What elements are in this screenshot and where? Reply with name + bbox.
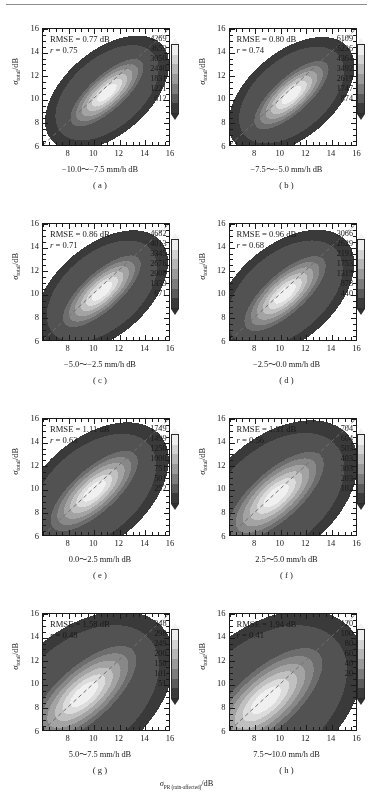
x-tick-label: 14 [323, 734, 339, 743]
y-tick-label: 6 [25, 337, 39, 346]
colorbar-tick-label: 150 [125, 659, 167, 669]
x-tick-label: 12 [297, 539, 313, 548]
colorbar-tick-label: 1749 [125, 424, 167, 434]
colorbar-bottom-arrow-icon [171, 699, 179, 705]
x-tick-label: 14 [136, 344, 152, 353]
global-x-axis-subscript: PR (rain-affected) [164, 784, 202, 790]
rmse-annotation: RMSE = 0.86 dB [50, 229, 110, 240]
y-tick-label: 12 [212, 71, 226, 80]
y-tick-label: 6 [212, 727, 226, 736]
colorbar-tick-label: 878 [311, 279, 353, 289]
colorbar-tick-label: 403 [311, 454, 353, 464]
colorbar-scale-c: 468240133345267620081339671 [125, 229, 167, 299]
rmse-annotation: RMSE = 1.58 dB [50, 619, 110, 630]
y-tick-label: 12 [25, 656, 39, 665]
correlation-annotation: r = 0.71 [50, 240, 78, 251]
y-tick-label: 16 [25, 609, 39, 618]
y-axis-title-h: σtotal/dB [197, 629, 208, 683]
x-tick-label: 8 [60, 734, 76, 743]
colorbar-scale-d: 30662629219117531315878440 [311, 229, 353, 299]
correlation-annotation: r = 0.63 [50, 435, 78, 446]
y-tick-label: 8 [212, 508, 226, 517]
y-tick-label: 10 [212, 484, 226, 493]
colorbar-tick-label: 51 [125, 679, 167, 689]
panel-label-h: ( h ) [207, 765, 367, 775]
panel-h: RMSE = 1.94 dB r = 0.41 810121416 681012… [187, 595, 373, 790]
x-tick-label: 10 [272, 344, 288, 353]
rmse-annotation: RMSE = 1.11 dB [50, 424, 109, 435]
colorbar-tick-label: 2008 [125, 269, 167, 279]
colorbar-bottom-arrow-icon [357, 114, 365, 120]
correlation-annotation: r = 0.68 [237, 240, 265, 251]
panel-b: RMSE = 0.80 dB r = 0.74 810121416 681012… [187, 10, 373, 205]
x-tick-label: 8 [246, 734, 262, 743]
y-tick-label: 10 [212, 94, 226, 103]
global-x-axis-unit: /dB [201, 779, 213, 788]
y-tick-label: 16 [212, 219, 226, 228]
x-tick-label: 8 [60, 344, 76, 353]
colorbar-bottom-arrow-icon [357, 504, 365, 510]
panel-row: RMSE = 1.58 dB r = 0.48 810121416 681012… [0, 595, 373, 790]
colorbar-tick-label: 6109 [311, 34, 353, 44]
rmse-annotation: RMSE = 0.80 dB [237, 34, 297, 45]
y-tick-label: 16 [212, 24, 226, 33]
colorbar-tick-label: 4269 [125, 34, 167, 44]
y-tick-label: 14 [212, 47, 226, 56]
y-tick-label: 10 [25, 679, 39, 688]
x-tick-label: 12 [297, 149, 313, 158]
y-tick-label: 8 [25, 118, 39, 127]
colorbar-scale-a: 426936593050244018311221612 [125, 34, 167, 104]
colorbar-tick-label: 501 [125, 474, 167, 484]
y-tick-label: 6 [212, 142, 226, 151]
correlation-annotation: r = 0.75 [50, 45, 78, 56]
colorbar-bottom-arrow-icon [171, 504, 179, 510]
panel-x-title-g: 5.0～7.5 mm/h dB [20, 747, 180, 759]
global-x-axis-title: σPR (rain-affected)/dB [0, 779, 373, 790]
rmse-annotation: RMSE = 1.94 dB [237, 619, 297, 630]
x-tick-label: 12 [111, 149, 127, 158]
y-tick-label: 14 [25, 47, 39, 56]
colorbar-tick-label: 2676 [125, 259, 167, 269]
colorbar-bottom-arrow-icon [357, 699, 365, 705]
colorbar-tick-label: 1831 [125, 74, 167, 84]
colorbar-gradient [171, 434, 179, 504]
y-tick-label: 14 [25, 437, 39, 446]
colorbar-tick-label: 751 [125, 464, 167, 474]
colorbar-a [169, 38, 181, 120]
x-tick-label: 14 [323, 149, 339, 158]
x-tick-label: 16 [162, 344, 178, 353]
colorbar-gradient [171, 44, 179, 114]
colorbar-tick-label: 249 [125, 639, 167, 649]
y-tick-label: 8 [212, 703, 226, 712]
colorbar-tick-label: 200 [125, 649, 167, 659]
x-tick-label: 16 [349, 149, 365, 158]
panel-d: RMSE = 0.96 dB r = 0.68 810121416 681012… [187, 205, 373, 400]
colorbar-tick-label: 120 [311, 619, 353, 629]
x-tick-label: 12 [111, 539, 127, 548]
panel-row: RMSE = 0.86 dB r = 0.71 810121416 681012… [0, 205, 373, 400]
y-tick-label: 10 [25, 94, 39, 103]
x-tick-label: 8 [60, 539, 76, 548]
colorbar-tick-label: 3066 [311, 229, 353, 239]
panel-x-title-c: −5.0～−2.5 mm/h dB [20, 357, 180, 369]
y-tick-label: 12 [25, 461, 39, 470]
x-tick-label: 12 [111, 344, 127, 353]
colorbar-tick-label: 704 [311, 424, 353, 434]
y-tick-label: 10 [25, 484, 39, 493]
colorbar-h [355, 623, 367, 705]
colorbar-tick-label: 1499 [125, 434, 167, 444]
panel-x-title-d: −2.5～0.0 mm/h dB [207, 357, 367, 369]
y-axis-title-b: σtotal/dB [197, 44, 208, 98]
y-tick-label: 12 [25, 266, 39, 275]
y-tick-label: 10 [212, 679, 226, 688]
colorbar-gradient [357, 434, 365, 504]
colorbar-tick-label: 80 [311, 639, 353, 649]
colorbar-c [169, 233, 181, 315]
x-tick-label: 10 [272, 149, 288, 158]
colorbar-tick-label: 1250 [125, 444, 167, 454]
y-tick-label: 16 [25, 219, 39, 228]
x-tick-label: 8 [246, 539, 262, 548]
colorbar-tick-label: 1315 [311, 269, 353, 279]
colorbar-b [355, 38, 367, 120]
panel-x-title-b: −7.5～−5.0 mm/h dB [207, 162, 367, 174]
